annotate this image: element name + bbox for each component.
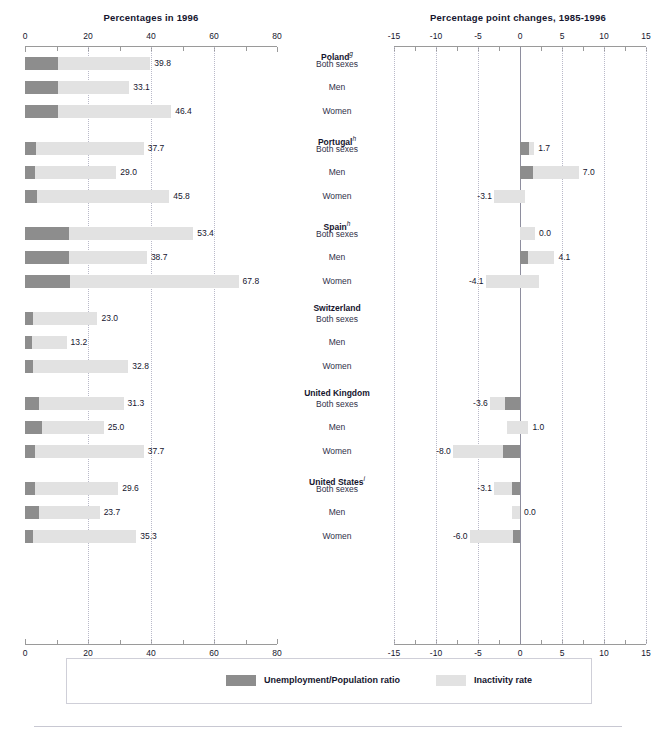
bar-value-label: -3.6	[464, 397, 488, 410]
bar-value-label: 7.0	[583, 166, 595, 179]
table-row: 39.8	[0, 57, 656, 70]
table-row: 1.7	[0, 142, 656, 155]
right-panel-title: Percentage point changes, 1985-1996	[392, 12, 644, 23]
bar-value-label: 0.0	[539, 227, 551, 240]
bar-segment-unemployment	[503, 445, 520, 458]
table-row: 13.2	[0, 336, 656, 349]
bar-segment-unemployment	[25, 105, 58, 118]
bar-segment-inactivity	[528, 251, 555, 264]
bar-value-label: 0.0	[524, 506, 536, 519]
right-axis-tick	[499, 640, 500, 644]
right-axis-tick-label: -15	[379, 648, 409, 658]
right-axis-tick	[415, 640, 416, 644]
table-row: 46.4	[0, 105, 656, 118]
right-axis-tick-label: -5	[463, 648, 493, 658]
bar-segment-inactivity	[33, 312, 98, 325]
bar-segment-unemployment	[512, 482, 520, 495]
right-axis-tick	[457, 640, 458, 644]
bar-segment-inactivity	[470, 530, 514, 543]
table-row: 23.0	[0, 312, 656, 325]
bar-segment-unemployment	[520, 142, 529, 155]
bar-segment-unemployment	[520, 166, 533, 179]
table-row: -3.1	[0, 482, 656, 495]
bar-segment-unemployment	[513, 530, 520, 543]
table-row: -3.1	[0, 190, 656, 203]
table-row: 1.0	[0, 421, 656, 434]
left-axis-tick	[120, 640, 121, 644]
right-axis-tick-label: 5	[547, 31, 577, 41]
right-axis-tick	[415, 47, 416, 51]
bar-segment-unemployment	[505, 397, 520, 410]
bar-segment-inactivity	[58, 57, 151, 70]
bar-value-label: 1.7	[538, 142, 550, 155]
bar-value-label: -8.0	[427, 445, 451, 458]
right-axis-tick-label: 10	[589, 31, 619, 41]
table-row: 0.0	[0, 506, 656, 519]
bar-value-label: 4.1	[558, 251, 570, 264]
bar-segment-unemployment	[25, 360, 33, 373]
left-panel-title: Percentages in 1996	[25, 12, 277, 23]
bar-value-label: -6.0	[444, 530, 468, 543]
left-axis-tick-label: 40	[136, 648, 166, 658]
left-axis-tick	[246, 640, 247, 644]
bar-segment-inactivity	[533, 166, 578, 179]
left-axis-tick	[246, 47, 247, 51]
bar-value-label: -3.1	[468, 190, 492, 203]
left-axis-tick-label: 20	[73, 31, 103, 41]
bar-segment-unemployment	[520, 251, 528, 264]
left-axis-tick	[120, 47, 121, 51]
bar-value-label: -3.1	[468, 482, 492, 495]
right-axis-tick-label: 5	[547, 648, 577, 658]
bar-segment-inactivity	[520, 227, 535, 240]
table-row: -8.0	[0, 445, 656, 458]
left-axis-tick-label: 0	[10, 31, 40, 41]
bar-value-label: 23.0	[101, 312, 118, 325]
right-axis-tick	[541, 47, 542, 51]
bar-value-label: 39.8	[154, 57, 171, 70]
left-axis-tick-label: 60	[199, 31, 229, 41]
right-axis-tick-label: -10	[421, 31, 451, 41]
left-axis-tick	[57, 640, 58, 644]
bar-value-label: 13.2	[71, 336, 88, 349]
right-axis-tick-label: 0	[505, 648, 535, 658]
left-axis-tick	[183, 640, 184, 644]
bar-value-label: 32.8	[132, 360, 149, 373]
bar-segment-inactivity	[58, 81, 130, 94]
legend-swatch-inactivity	[436, 675, 466, 686]
left-axis-tick-label: 20	[73, 648, 103, 658]
bar-segment-inactivity	[58, 105, 171, 118]
right-axis-tick-label: -5	[463, 31, 493, 41]
right-axis-tick	[499, 47, 500, 51]
left-axis-tick-label: 0	[10, 648, 40, 658]
left-axis-tick	[25, 639, 26, 644]
left-axis-tick	[57, 47, 58, 51]
right-axis-line-bottom	[394, 644, 646, 645]
legend-label-inactivity: Inactivity rate	[474, 673, 532, 687]
table-row: -6.0	[0, 530, 656, 543]
right-axis-tick-label: 0	[505, 31, 535, 41]
bar-segment-inactivity	[507, 421, 529, 434]
left-axis-tick-label: 40	[136, 31, 166, 41]
right-axis-tick-label: -10	[421, 648, 451, 658]
left-axis-tick-label: 60	[199, 648, 229, 658]
right-axis-tick-label: 10	[589, 648, 619, 658]
right-axis-tick	[541, 640, 542, 644]
table-row: 32.8	[0, 360, 656, 373]
right-axis-tick	[625, 640, 626, 644]
right-axis-tick	[583, 47, 584, 51]
legend-label-unemployment: Unemployment/Population ratio	[264, 673, 400, 687]
bar-value-label: 1.0	[532, 421, 544, 434]
bar-segment-inactivity	[453, 445, 503, 458]
table-row: 33.1	[0, 81, 656, 94]
footer-divider	[34, 726, 622, 727]
right-axis-tick-label: 15	[631, 31, 656, 41]
bar-segment-inactivity	[494, 482, 512, 495]
left-axis-tick	[277, 639, 278, 644]
bar-value-label: 33.1	[133, 81, 150, 94]
bar-segment-inactivity	[486, 275, 540, 288]
bar-segment-inactivity	[490, 397, 505, 410]
right-axis-tick	[625, 47, 626, 51]
bar-segment-inactivity	[512, 506, 520, 519]
bar-segment-inactivity	[32, 336, 66, 349]
chart-canvas: Percentages in 1996 Percentage point cha…	[0, 0, 656, 736]
